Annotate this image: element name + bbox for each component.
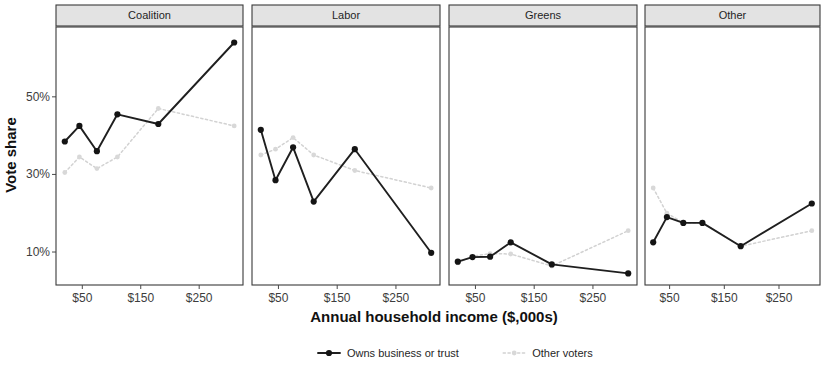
legend-dot-owns-business — [326, 350, 332, 356]
facet-strip-label: Coalition — [128, 9, 171, 21]
data-point-owns-business — [699, 220, 705, 226]
panel-frame — [56, 27, 243, 285]
facet-line-chart: Vote share 10%30%50% Coalition$50$150$25… — [0, 0, 828, 366]
chart-canvas: Vote share 10%30%50% Coalition$50$150$25… — [0, 0, 828, 366]
x-tick-label: $250 — [580, 291, 607, 305]
data-point-owns-business — [650, 239, 656, 245]
x-axis-title: Annual household income ($,000s) — [310, 308, 558, 325]
y-axis: 10%30%50% — [26, 90, 56, 259]
panel-frame — [645, 27, 820, 285]
x-tick-label: $50 — [465, 291, 485, 305]
x-tick-label: $50 — [268, 291, 288, 305]
data-point-owns-business — [76, 123, 82, 129]
data-point-owns-business — [738, 243, 744, 249]
y-tick-label: 30% — [26, 167, 50, 181]
panels-group: Coalition$50$150$250Labor$50$150$250Gree… — [56, 5, 820, 305]
data-point-owns-business — [311, 199, 317, 205]
legend-label: Owns business or trust — [347, 347, 459, 359]
panel-frame — [252, 27, 440, 285]
data-point-other-voters — [115, 155, 120, 160]
facet-strip-label: Labor — [332, 9, 360, 21]
data-point-owns-business — [455, 259, 461, 265]
data-point-other-voters — [626, 228, 631, 233]
facet-panel: Coalition$50$150$250 — [56, 5, 243, 305]
facet-panel: Greens$50$150$250 — [449, 5, 637, 305]
facet-strip-label: Other — [719, 9, 747, 21]
data-point-owns-business — [114, 111, 120, 117]
data-point-owns-business — [258, 127, 264, 133]
legend-dot-other-voters — [512, 351, 517, 356]
data-point-owns-business — [352, 146, 358, 152]
data-point-other-voters — [156, 106, 161, 111]
data-point-owns-business — [680, 220, 686, 226]
data-point-owns-business — [508, 239, 514, 245]
data-point-owns-business — [487, 254, 493, 260]
data-point-other-voters — [508, 252, 513, 257]
x-tick-label: $50 — [660, 291, 680, 305]
y-axis-title: Vote share — [2, 117, 19, 193]
x-tick-label: $250 — [186, 291, 213, 305]
data-point-other-voters — [77, 155, 82, 160]
data-point-other-voters — [273, 147, 278, 152]
data-point-owns-business — [272, 177, 278, 183]
data-point-owns-business — [155, 121, 161, 127]
data-point-other-voters — [95, 166, 100, 171]
data-point-owns-business — [231, 39, 237, 45]
x-tick-label: $150 — [521, 291, 548, 305]
x-tick-label: $150 — [127, 291, 154, 305]
facet-panel: Other$50$150$250 — [645, 5, 820, 305]
x-tick-label: $150 — [711, 291, 738, 305]
data-point-owns-business — [62, 138, 68, 144]
data-point-other-voters — [809, 228, 814, 233]
data-point-owns-business — [809, 200, 815, 206]
data-point-other-voters — [232, 124, 237, 129]
x-tick-label: $150 — [324, 291, 351, 305]
data-point-other-voters — [62, 170, 67, 175]
data-point-owns-business — [290, 144, 296, 150]
data-point-other-voters — [311, 153, 316, 158]
data-point-other-voters — [258, 153, 263, 158]
data-point-owns-business — [664, 214, 670, 220]
chart-legend: Owns business or trustOther voters — [318, 347, 593, 359]
data-point-other-voters — [429, 186, 434, 191]
legend-label: Other voters — [532, 347, 593, 359]
x-tick-label: $50 — [72, 291, 92, 305]
data-point-owns-business — [428, 250, 434, 256]
data-point-other-voters — [651, 186, 656, 191]
data-point-other-voters — [291, 135, 296, 140]
data-point-other-voters — [352, 168, 357, 173]
facet-strip-label: Greens — [525, 9, 562, 21]
x-tick-label: $250 — [766, 291, 793, 305]
x-tick-label: $250 — [383, 291, 410, 305]
y-tick-label: 10% — [26, 245, 50, 259]
data-point-owns-business — [94, 148, 100, 154]
y-tick-label: 50% — [26, 90, 50, 104]
data-point-owns-business — [625, 270, 631, 276]
data-point-owns-business — [549, 261, 555, 267]
panel-frame — [449, 27, 637, 285]
facet-panel: Labor$50$150$250 — [252, 5, 440, 305]
data-point-owns-business — [469, 254, 475, 260]
